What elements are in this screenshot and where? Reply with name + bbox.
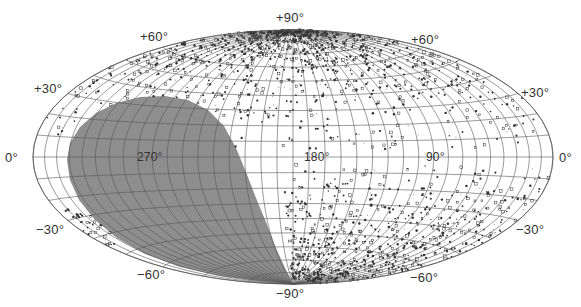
- object-marker: [212, 92, 214, 94]
- object-marker: [475, 110, 477, 112]
- object-marker: [367, 215, 368, 216]
- object-marker: [388, 222, 390, 224]
- label-south-pole: −90°: [276, 287, 304, 300]
- object-marker: [305, 278, 307, 280]
- object-marker: [399, 50, 401, 52]
- object-marker: [316, 40, 318, 42]
- object-marker: [256, 99, 258, 101]
- object-marker: [307, 51, 309, 53]
- object-marker: [383, 176, 385, 178]
- object-marker: [290, 89, 291, 90]
- object-marker: [370, 51, 371, 52]
- object-marker: [417, 264, 419, 266]
- object-marker: [328, 37, 330, 39]
- object-marker: [224, 39, 226, 41]
- object-marker: [354, 171, 355, 172]
- object-marker: [223, 98, 225, 100]
- object-marker: [345, 87, 347, 89]
- object-marker: [489, 193, 490, 194]
- object-marker: [295, 261, 296, 262]
- object-marker: [292, 275, 294, 277]
- object-marker: [234, 145, 236, 147]
- object-marker: [313, 71, 314, 72]
- object-marker: [396, 252, 398, 254]
- object-marker: [274, 56, 276, 58]
- object-marker: [348, 239, 350, 241]
- object-marker: [412, 95, 414, 97]
- object-marker: [292, 109, 294, 111]
- object-marker: [145, 85, 147, 87]
- object-marker: [323, 186, 325, 188]
- object-marker: [169, 48, 171, 50]
- object-marker: [261, 121, 263, 123]
- object-marker: [478, 211, 479, 212]
- object-marker: [326, 97, 327, 98]
- object-marker: [457, 223, 459, 225]
- object-marker: [339, 263, 340, 264]
- object-marker: [356, 261, 358, 263]
- object-marker: [430, 219, 431, 220]
- object-marker: [292, 76, 293, 77]
- object-marker: [181, 55, 183, 57]
- object-marker: [331, 89, 332, 90]
- object-marker: [374, 228, 376, 230]
- object-marker: [311, 64, 313, 66]
- object-marker: [402, 238, 404, 240]
- object-marker: [306, 211, 308, 213]
- object-marker: [474, 173, 476, 175]
- object-marker: [186, 87, 187, 88]
- object-marker: [334, 82, 335, 83]
- object-marker: [389, 64, 392, 67]
- object-marker: [341, 93, 343, 95]
- object-marker: [373, 37, 374, 38]
- object-marker: [89, 222, 91, 224]
- object-marker: [343, 195, 345, 197]
- object-marker: [264, 110, 266, 112]
- object-marker: [341, 273, 343, 275]
- object-marker: [354, 99, 356, 101]
- object-marker: [330, 262, 331, 263]
- object-marker: [210, 52, 211, 53]
- object-marker: [343, 250, 344, 251]
- object-marker: [355, 133, 357, 135]
- object-marker: [418, 48, 420, 50]
- object-marker: [425, 257, 427, 259]
- object-marker: [278, 56, 280, 58]
- object-marker: [274, 32, 275, 33]
- object-marker: [303, 90, 304, 91]
- object-marker: [274, 50, 276, 52]
- object-marker: [494, 172, 496, 174]
- object-marker: [227, 42, 229, 44]
- object-marker: [127, 79, 129, 81]
- object-marker: [295, 85, 297, 87]
- object-marker: [306, 61, 308, 63]
- object-marker: [359, 134, 360, 135]
- object-marker: [466, 75, 467, 76]
- object-marker: [278, 31, 280, 33]
- object-marker: [422, 237, 423, 238]
- object-marker: [371, 93, 373, 95]
- object-marker: [369, 96, 371, 98]
- object-marker: [248, 34, 249, 35]
- object-marker: [332, 69, 334, 71]
- object-marker: [348, 276, 350, 278]
- object-marker: [289, 139, 290, 140]
- object-marker: [345, 201, 347, 203]
- object-marker: [335, 217, 337, 219]
- object-marker: [262, 88, 265, 91]
- object-marker: [413, 56, 415, 58]
- object-marker: [438, 92, 440, 94]
- object-marker: [430, 226, 432, 228]
- object-marker: [300, 35, 302, 37]
- object-marker: [388, 43, 390, 45]
- object-marker: [448, 120, 449, 121]
- object-marker: [263, 32, 265, 34]
- object-marker: [479, 114, 481, 116]
- object-marker: [349, 268, 351, 270]
- object-marker: [317, 222, 318, 223]
- object-marker: [288, 51, 289, 52]
- object-marker: [344, 101, 347, 104]
- object-marker: [341, 221, 343, 223]
- object-marker: [377, 209, 379, 211]
- object-marker: [354, 80, 356, 82]
